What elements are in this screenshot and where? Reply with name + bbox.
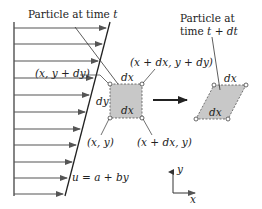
label-particle-tdt-line2: time t + dt <box>180 25 239 37</box>
fluid-element-diagram: Particle at time t Particle at time t + … <box>0 0 262 209</box>
velocity-profile-line <box>65 22 110 196</box>
velocity-profile-arrows <box>14 28 106 194</box>
axes-indicator <box>173 172 195 193</box>
leader-particle-t <box>75 27 124 92</box>
label-corner-top-right: (x + dx, y + dy) <box>130 56 213 68</box>
leader-particle-tdt <box>212 37 220 90</box>
label-axis-y: y <box>176 163 184 175</box>
label-corner-bottom-left: (x, y) <box>87 136 114 148</box>
label-square-top-dx: dx <box>121 71 134 83</box>
label-square-left-dy: dy <box>96 95 110 107</box>
label-parallelogram-bottom-dx: dx <box>209 106 222 118</box>
label-particle-t: Particle at time t <box>28 8 118 20</box>
label-parallelogram-top-dx: dx <box>224 72 237 84</box>
label-axis-x: x <box>190 193 196 205</box>
label-particle-tdt-line1: Particle at <box>180 12 236 24</box>
label-corner-bottom-right: (x + dx, y) <box>137 136 192 148</box>
label-square-bottom-dx: dx <box>121 104 134 116</box>
label-corner-top-left: (x, y + dy) <box>35 67 90 79</box>
label-velocity-profile: u = a + by <box>72 171 130 183</box>
